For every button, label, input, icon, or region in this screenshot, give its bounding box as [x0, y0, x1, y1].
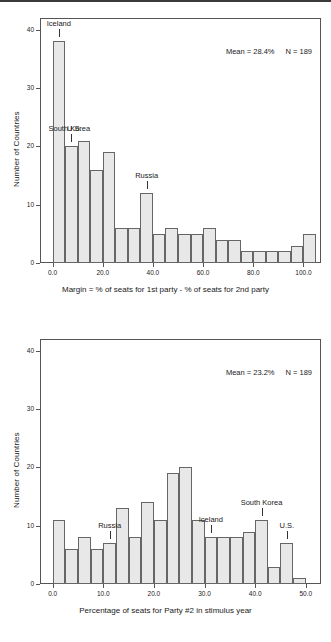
histogram-bar	[293, 578, 306, 584]
histogram-bar	[303, 234, 316, 263]
histogram-bar	[91, 549, 104, 584]
x-tick-label: 50.0	[286, 590, 326, 597]
y-tick-mark	[36, 205, 40, 206]
histogram-bar	[178, 234, 191, 263]
x-tick-mark	[205, 584, 206, 588]
histogram-bar	[115, 228, 128, 263]
y-tick-mark	[36, 30, 40, 31]
y-tick-label: 0	[14, 259, 34, 266]
histogram-bar	[116, 508, 129, 584]
x-tick-mark	[53, 263, 54, 267]
histogram-bar	[140, 193, 153, 263]
histogram-bar	[90, 170, 103, 263]
summary-stats-top: Mean = 28.4%N = 189	[226, 47, 312, 56]
histogram-bar	[291, 246, 304, 264]
histogram-bar	[65, 549, 78, 584]
figure-container: Number of Countries Margin = % of seats …	[0, 0, 331, 642]
annotation-pointer	[71, 134, 72, 142]
histogram-bar	[241, 251, 254, 263]
chart-panel-party2: Number of Countries Percentage of seats …	[0, 321, 331, 642]
x-tick-label: 40.0	[133, 269, 173, 276]
mean-value-top: Mean = 28.4%	[226, 47, 275, 56]
annotation-label: U.S.	[67, 124, 82, 133]
x-tick-label: 0.0	[33, 590, 73, 597]
x-tick-label: 20.0	[134, 590, 174, 597]
y-tick-mark	[36, 263, 40, 264]
annotation-label: Iceland	[47, 19, 71, 28]
x-tick-label: 0.0	[33, 269, 73, 276]
x-tick-label: 10.0	[83, 590, 123, 597]
annotation-pointer	[59, 29, 60, 37]
chart-panel-margin: Number of Countries Margin = % of seats …	[0, 0, 331, 321]
annotation-label: Russia	[98, 521, 121, 530]
y-tick-label: 30	[14, 84, 34, 91]
histogram-bar	[141, 502, 154, 584]
histogram-bar	[205, 537, 218, 584]
x-tick-mark	[103, 263, 104, 267]
histogram-bar	[243, 532, 256, 585]
histogram-bar	[191, 234, 204, 263]
x-tick-mark	[154, 584, 155, 588]
y-tick-label: 20	[14, 463, 34, 470]
annotation-pointer	[110, 531, 111, 539]
histogram-bar	[103, 152, 116, 263]
histogram-bar	[128, 228, 141, 263]
summary-stats-bottom: Mean = 23.2%N = 189	[226, 368, 312, 377]
x-axis-label-top: Margin = % of seats for 1st party - % of…	[0, 285, 331, 294]
y-tick-mark	[36, 526, 40, 527]
histogram-bar	[53, 41, 66, 263]
annotation-pointer	[262, 508, 263, 516]
histogram-bar	[255, 520, 268, 584]
y-tick-mark	[36, 409, 40, 410]
x-tick-mark	[203, 263, 204, 267]
n-value-bottom: N = 189	[286, 368, 312, 377]
y-tick-label: 10	[14, 522, 34, 529]
histogram-bar	[53, 520, 66, 584]
annotation-label: Iceland	[199, 515, 223, 524]
histogram-bar	[217, 537, 230, 584]
histogram-bar	[216, 240, 229, 263]
y-tick-label: 10	[14, 201, 34, 208]
annotation-label: U.S.	[280, 521, 295, 530]
x-tick-mark	[153, 263, 154, 267]
x-tick-label: 40.0	[235, 590, 275, 597]
mean-value-bottom: Mean = 23.2%	[226, 368, 275, 377]
x-tick-label: 20.0	[83, 269, 123, 276]
x-tick-label: 80.0	[233, 269, 273, 276]
x-tick-mark	[253, 263, 254, 267]
histogram-bar	[78, 141, 91, 264]
x-tick-label: 30.0	[185, 590, 225, 597]
x-tick-mark	[53, 584, 54, 588]
annotation-pointer	[147, 181, 148, 189]
y-tick-label: 0	[14, 580, 34, 587]
annotation-label: South Korea	[241, 498, 283, 507]
y-tick-mark	[36, 467, 40, 468]
x-tick-mark	[303, 263, 304, 267]
histogram-bar	[167, 473, 180, 584]
histogram-bar	[103, 543, 116, 584]
y-tick-label: 40	[14, 347, 34, 354]
y-tick-label: 40	[14, 26, 34, 33]
x-axis-label-bottom: Percentage of seats for Party #2 in stim…	[0, 606, 331, 615]
histogram-bar	[230, 537, 243, 584]
annotation-pointer	[211, 525, 212, 533]
y-tick-label: 30	[14, 405, 34, 412]
x-tick-mark	[306, 584, 307, 588]
x-tick-mark	[255, 584, 256, 588]
n-value-top: N = 189	[286, 47, 312, 56]
y-tick-mark	[36, 584, 40, 585]
histogram-bar	[268, 567, 281, 585]
histogram-bar	[154, 520, 167, 584]
histogram-bar	[65, 146, 78, 263]
histogram-bar	[179, 467, 192, 584]
x-tick-label: 60.0	[183, 269, 223, 276]
histogram-bar	[278, 251, 291, 263]
x-tick-label: 100.0	[283, 269, 323, 276]
histogram-bar	[253, 251, 266, 263]
histogram-bar	[153, 234, 166, 263]
y-tick-mark	[36, 351, 40, 352]
histogram-bar	[280, 543, 293, 584]
annotation-label: Russia	[135, 171, 158, 180]
annotation-pointer	[287, 531, 288, 539]
y-tick-label: 20	[14, 142, 34, 149]
